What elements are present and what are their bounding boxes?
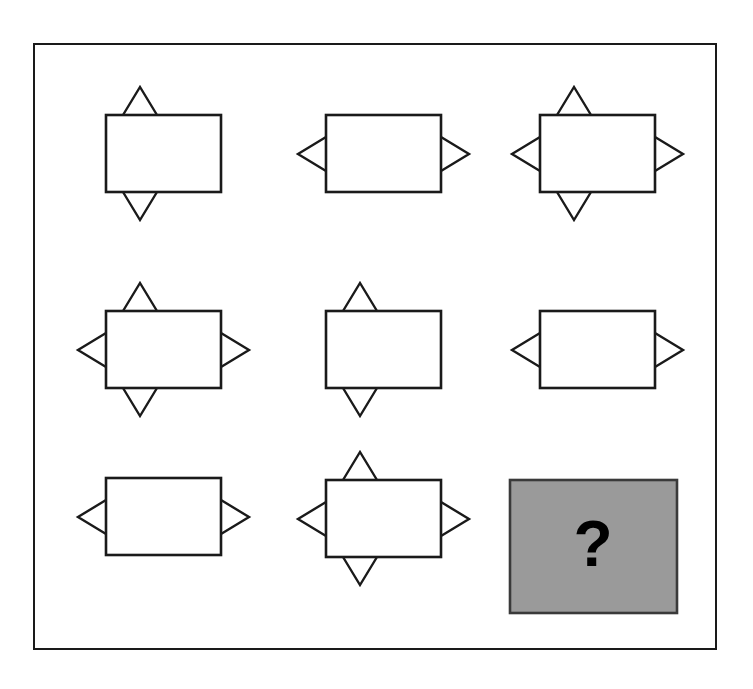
- triangle-right-icon: [655, 137, 683, 171]
- triangle-top-icon: [123, 283, 157, 311]
- figure-rectangle-with-four-triangles: [53, 251, 273, 447]
- figure-rectangle-with-left-and-right-triangles: [53, 445, 273, 641]
- rectangle-body: [540, 115, 655, 192]
- rectangle-body: [326, 480, 441, 557]
- triangle-left-icon: [298, 137, 326, 171]
- triangle-bottom-icon: [123, 388, 157, 416]
- triangle-right-icon: [221, 500, 249, 534]
- matrix-cell-r1c1[interactable]: [53, 55, 273, 251]
- figure-rectangle-with-left-and-right-triangles: [273, 55, 493, 251]
- rectangle-body: [326, 311, 441, 388]
- triangle-top-icon: [343, 283, 377, 311]
- figure-rectangle-with-left-and-right-triangles: [487, 251, 707, 447]
- matrix-cell-r2c3[interactable]: [487, 251, 707, 447]
- rectangle-body: [106, 115, 221, 192]
- triangle-bottom-icon: [557, 192, 591, 220]
- triangle-right-icon: [655, 333, 683, 367]
- triangle-left-icon: [298, 502, 326, 536]
- matrix-cell-r3c2[interactable]: [273, 445, 493, 641]
- triangle-bottom-icon: [123, 192, 157, 220]
- matrix-cell-r2c1[interactable]: [53, 251, 273, 447]
- triangle-bottom-icon: [343, 388, 377, 416]
- triangle-left-icon: [512, 333, 540, 367]
- triangle-right-icon: [441, 502, 469, 536]
- figure-rectangle-with-top-and-bottom-triangles: [53, 55, 273, 251]
- triangle-left-icon: [78, 500, 106, 534]
- matrix-cell-r3c3-answer[interactable]: ?: [487, 445, 707, 641]
- matrix-grid: ?: [35, 45, 715, 648]
- rectangle-body: [540, 311, 655, 388]
- matrix-cell-r1c3[interactable]: [487, 55, 707, 251]
- triangle-right-icon: [441, 137, 469, 171]
- triangle-left-icon: [78, 333, 106, 367]
- triangle-left-icon: [512, 137, 540, 171]
- triangle-bottom-icon: [343, 557, 377, 585]
- question-mark-label: ?: [573, 508, 612, 580]
- matrix-cell-r2c2[interactable]: [273, 251, 493, 447]
- figure-rectangle-with-top-and-bottom-triangles: [273, 251, 493, 447]
- triangle-top-icon: [557, 87, 591, 115]
- rectangle-body: [106, 311, 221, 388]
- figure-rectangle-with-four-triangles: [487, 55, 707, 251]
- figure-answer-placeholder: ?: [487, 445, 707, 641]
- matrix-cell-r3c1[interactable]: [53, 445, 273, 641]
- rectangle-body: [326, 115, 441, 192]
- figure-rectangle-with-four-triangles: [273, 445, 493, 641]
- triangle-top-icon: [343, 452, 377, 480]
- puzzle-root: ?: [0, 0, 753, 689]
- triangle-right-icon: [221, 333, 249, 367]
- puzzle-outer-frame: ?: [33, 43, 717, 650]
- rectangle-body: [106, 478, 221, 555]
- triangle-top-icon: [123, 87, 157, 115]
- matrix-cell-r1c2[interactable]: [273, 55, 493, 251]
